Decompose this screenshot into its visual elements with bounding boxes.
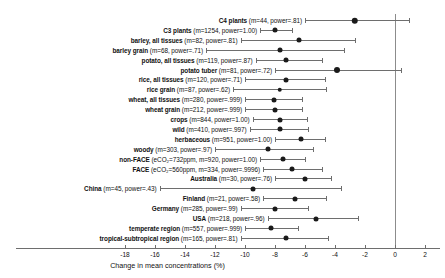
ci-cap-high (355, 38, 356, 43)
x-axis-tick (425, 245, 426, 248)
x-axis-tick (215, 245, 216, 248)
ci-cap-low (263, 167, 264, 172)
ci-cap-low (250, 127, 251, 132)
ci-cap-low (245, 77, 246, 82)
point-estimate-marker (334, 67, 340, 73)
x-axis-tick (335, 245, 336, 248)
ci-cap-high (308, 206, 309, 211)
ci-cap-low (256, 58, 257, 63)
x-axis-tick-label: -2 (353, 251, 377, 258)
ci-cap-high (344, 48, 345, 53)
ci-cap-low (263, 196, 264, 201)
point-estimate-marker (292, 196, 297, 201)
point-estimate-marker (280, 157, 285, 162)
ci-cap-low (260, 28, 261, 33)
ci-cap-high (331, 176, 332, 181)
ci-cap-low (245, 226, 246, 231)
ci-cap-high (302, 107, 303, 112)
ci-cap-low (305, 18, 306, 23)
point-estimate-marker (271, 97, 276, 102)
x-axis-tick (155, 245, 156, 248)
point-estimate-marker (277, 88, 282, 93)
ci-cap-high (307, 117, 308, 122)
ci-cap-low (253, 117, 254, 122)
x-axis-tick-label: -16 (143, 251, 167, 258)
ci-cap-high (401, 68, 402, 73)
point-estimate-marker (273, 28, 278, 33)
x-axis-tick (275, 245, 276, 248)
point-estimate-marker (303, 176, 308, 181)
ci-cap-high (358, 216, 359, 221)
ci-cap-low (233, 87, 234, 92)
x-axis-tick (365, 245, 366, 248)
x-axis-tick-label: -10 (233, 251, 257, 258)
point-estimate-marker (277, 48, 282, 53)
x-axis-tick (125, 245, 126, 248)
ci-cap-high (308, 127, 309, 132)
point-estimate-marker (283, 236, 288, 241)
x-axis-tick-label: -8 (263, 251, 287, 258)
forest-row-label: tropical-subtropical region (m=165, powe… (100, 232, 238, 245)
ci-cap-high (313, 147, 314, 152)
ci-cap-low (160, 186, 161, 191)
ci-cap-low (241, 38, 242, 43)
forest-row-name: tropical-subtropical region (100, 235, 180, 242)
point-estimate-marker (250, 186, 255, 191)
point-estimate-marker (313, 216, 318, 221)
ci-cap-low (206, 48, 207, 53)
point-estimate-marker (268, 226, 273, 231)
x-axis-tick-label: 2 (413, 251, 437, 258)
ci-cap-high (322, 58, 323, 63)
point-estimate-marker (265, 147, 270, 152)
ci-cap-high (326, 87, 327, 92)
ci-cap-high (409, 18, 410, 23)
point-estimate-marker (289, 167, 294, 172)
ci-cap-low (241, 206, 242, 211)
ci-cap-low (268, 216, 269, 221)
x-axis-line (16, 248, 440, 249)
point-estimate-marker (297, 38, 302, 43)
ci-cap-low (245, 97, 246, 102)
x-axis-tick-label: -6 (293, 251, 317, 258)
ci-cap-high (341, 186, 342, 191)
ci-cap-low (245, 107, 246, 112)
point-estimate-marker (283, 77, 288, 82)
ci-cap-low (275, 68, 276, 73)
x-axis-tick-label: 0 (383, 251, 407, 258)
ci-cap-high (325, 77, 326, 82)
confidence-interval-bar (256, 60, 322, 61)
ci-cap-high (322, 167, 323, 172)
ci-cap-high (298, 226, 299, 231)
point-estimate-marker (283, 58, 288, 63)
confidence-interval-bar (206, 50, 344, 51)
point-estimate-marker (277, 117, 282, 122)
x-axis-tick (185, 245, 186, 248)
point-estimate-marker (298, 137, 303, 142)
ci-cap-high (292, 28, 293, 33)
x-axis-tick-label: -18 (113, 251, 137, 258)
ci-cap-high (325, 137, 326, 142)
ci-cap-low (275, 137, 276, 142)
ci-cap-high (302, 97, 303, 102)
point-estimate-marker (273, 107, 278, 112)
forest-row-stats: (m=165, power=.81) (179, 235, 237, 242)
forest-plot: C4 plants (m=44, power=.81)C3 plants (m=… (0, 0, 445, 278)
x-axis-tick (305, 245, 306, 248)
x-axis-label: Change in mean concentrations (%) (0, 261, 335, 270)
ci-cap-low (241, 236, 242, 241)
ci-cap-low (275, 176, 276, 181)
ci-cap-high (328, 236, 329, 241)
confidence-interval-bar (215, 149, 313, 150)
forest-row: tropical-subtropical region (m=165, powe… (0, 232, 445, 245)
point-estimate-marker (273, 206, 278, 211)
x-axis-tick (395, 245, 396, 248)
x-axis-tick (245, 245, 246, 248)
ci-cap-low (260, 157, 261, 162)
x-axis-tick-label: -4 (323, 251, 347, 258)
ci-cap-high (305, 157, 306, 162)
x-axis-tick-label: -12 (203, 251, 227, 258)
point-estimate-marker (277, 127, 282, 132)
ci-cap-high (326, 196, 327, 201)
ci-cap-low (215, 147, 216, 152)
point-estimate-marker (351, 17, 358, 24)
